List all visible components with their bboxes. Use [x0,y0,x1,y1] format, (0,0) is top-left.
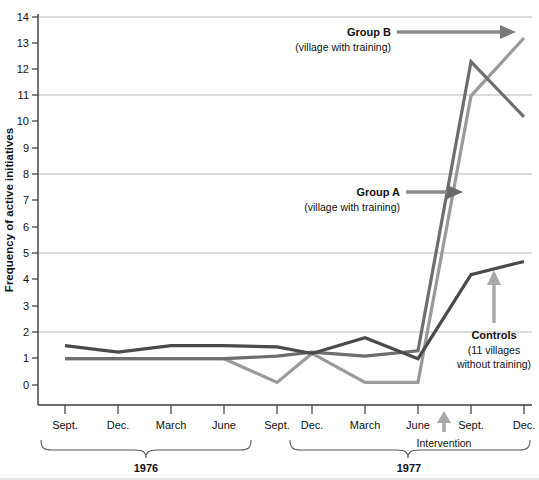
y-tick-labels: 14 13 12 11 10 9 8 7 6 5 4 3 2 1 0 [17,11,29,391]
annotation-group-b: Group B (village with training) [295,25,516,53]
annotation-group-b-arrow-head [500,25,516,39]
x-tick-label: Sept. [52,419,78,431]
y-tick-label: 6 [23,221,29,233]
x-tick-label: Sept. [458,419,484,431]
x-tickmarks [65,405,524,414]
annotation-group-a-subtitle: (village with training) [304,201,400,213]
series-group [65,38,524,382]
annotation-group-b-title: Group B [347,26,391,38]
y-axis-title: Frequency of active initiatives [3,128,15,292]
series-line-group-b [65,38,524,382]
x-tick-labels: Sept. Dec. March June Sept. Dec. March J… [52,419,535,431]
annotation-controls-title: Controls [471,329,516,341]
annotation-intervention-label: Intervention [417,437,472,449]
x-tick-label: Sept. [264,419,290,431]
y-tick-label: 8 [23,168,29,180]
x-tick-label: Dec. [513,419,536,431]
annotation-controls-arrow-head [487,270,501,285]
brace-1976 [41,440,251,458]
y-tick-label: 7 [23,194,29,206]
year-label-1976: 1976 [134,462,158,474]
x-tick-label: March [350,419,381,431]
annotation-controls-subtitle-line2: without training) [456,358,531,370]
x-tick-label: March [156,419,187,431]
chart-container: 14 13 12 11 10 9 8 7 6 5 4 3 2 1 0 Frequ… [0,0,539,480]
annotation-intervention-arrow-head [437,411,451,423]
y-tick-label: 3 [23,300,29,312]
line-chart: 14 13 12 11 10 9 8 7 6 5 4 3 2 1 0 Frequ… [0,0,539,480]
y-tick-label: 2 [23,326,29,338]
x-tick-label: June [212,419,236,431]
y-tick-label: 5 [23,247,29,259]
y-tick-label: 10 [17,115,29,127]
y-tick-label: 0 [23,379,29,391]
annotation-group-a: Group A (village with training) [304,185,463,213]
annotation-controls-subtitle-line1: (11 villages [468,344,520,356]
series-line-controls [65,261,524,358]
y-tick-label: 11 [18,89,29,101]
y-tick-label: 14 [17,11,29,23]
annotation-group-b-subtitle: (village with training) [295,41,391,53]
x-tick-label: Dec. [107,419,130,431]
year-label-1977: 1977 [397,462,421,474]
annotation-group-a-title: Group A [356,186,400,198]
y-tick-label: 13 [17,37,29,49]
y-tick-label: 12 [17,63,29,75]
annotation-controls: Controls (11 villages without training) [456,270,531,370]
x-tick-label: June [406,419,430,431]
x-tick-label: Dec. [301,419,324,431]
brace-1977 [290,440,530,458]
y-tick-label: 4 [23,273,29,285]
series-line-group-a [65,62,524,359]
y-tickmarks [32,17,38,385]
y-tick-label: 9 [23,142,29,154]
y-tick-label: 1 [23,352,29,364]
